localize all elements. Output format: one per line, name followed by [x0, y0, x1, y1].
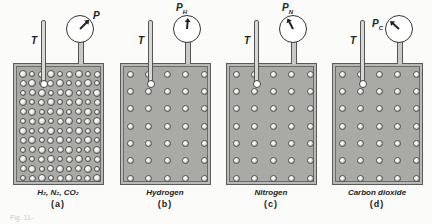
- gas-molecule: [201, 71, 208, 78]
- gauge-label: PN: [282, 2, 293, 15]
- gas-molecule: [57, 175, 64, 182]
- gas-molecule: [307, 175, 314, 182]
- gas-name-label: Hydrogen: [115, 188, 215, 197]
- gas-molecule: [94, 137, 100, 143]
- gas-molecule: [57, 118, 64, 125]
- gauge-needle: [186, 21, 189, 29]
- gas-molecule: [233, 88, 240, 95]
- gas-molecule: [288, 140, 295, 147]
- gas-molecule: [76, 175, 82, 181]
- gas-molecule: [65, 174, 73, 182]
- gauge-stem: [78, 40, 84, 64]
- gas-molecule: [76, 90, 82, 96]
- gas-molecule: [307, 88, 314, 95]
- gas-molecule: [357, 88, 364, 95]
- thermometer-icon: [360, 20, 365, 84]
- gas-molecule: [20, 118, 26, 124]
- gas-molecule: [182, 157, 189, 164]
- gas-molecule: [145, 105, 152, 112]
- gas-molecule: [56, 136, 64, 144]
- gauge-label: PC: [372, 18, 383, 31]
- gas-molecule: [270, 71, 277, 78]
- gas-name-label: Nitrogen: [221, 188, 321, 197]
- gauge-label-subscript: N: [289, 9, 293, 15]
- gas-molecule: [84, 79, 92, 87]
- gas-molecule: [270, 157, 277, 164]
- gas-molecule: [29, 146, 36, 153]
- gauge-label-subscript: C: [379, 25, 383, 31]
- gas-molecule: [85, 99, 91, 105]
- gas-molecule: [29, 99, 35, 105]
- gas-vessel: [332, 63, 423, 185]
- gas-molecule: [19, 98, 27, 106]
- gas-molecule: [29, 118, 36, 125]
- gas-molecule: [413, 175, 420, 182]
- gas-molecule: [251, 175, 258, 182]
- thermometer-bulb: [359, 80, 367, 88]
- gas-molecule: [357, 157, 364, 164]
- panel-c: TPNNitrogen(c): [226, 0, 332, 212]
- gauge-label-subscript: H: [183, 9, 187, 15]
- gas-molecule: [48, 118, 54, 124]
- gas-molecule: [233, 123, 240, 130]
- gas-molecule: [84, 175, 91, 182]
- gas-molecule: [48, 147, 54, 153]
- gas-molecule: [394, 175, 401, 182]
- gauge-label-main: P: [93, 10, 100, 21]
- gas-molecule: [57, 71, 63, 77]
- gas-molecule: [145, 175, 152, 182]
- thermometer-bulb: [253, 80, 261, 88]
- gas-molecule: [75, 80, 82, 87]
- gas-molecule: [94, 99, 101, 106]
- gas-molecule: [57, 89, 64, 96]
- gas-molecule: [201, 157, 208, 164]
- pressure-gauge-icon: [66, 15, 94, 43]
- thermometer-icon: [254, 20, 259, 84]
- gauge-stem: [185, 40, 191, 64]
- gas-molecule: [38, 127, 45, 134]
- gas-molecule: [394, 105, 401, 112]
- panel-letter: (a): [8, 199, 108, 209]
- gas-molecule: [233, 175, 240, 182]
- gas-molecule: [394, 71, 401, 78]
- pressure-gauge-icon: [385, 15, 413, 43]
- gas-molecule: [65, 89, 73, 97]
- gas-molecule: [127, 140, 134, 147]
- gas-molecule: [413, 140, 420, 147]
- gas-molecule: [127, 123, 134, 130]
- gas-molecule: [93, 89, 101, 97]
- gas-molecule: [19, 155, 27, 163]
- gas-molecule: [20, 147, 26, 153]
- gas-molecule: [65, 146, 73, 154]
- gas-molecule: [57, 146, 64, 153]
- gas-molecule: [127, 157, 134, 164]
- gas-molecule: [288, 88, 295, 95]
- gas-molecule: [164, 123, 171, 130]
- gas-molecule: [29, 71, 35, 77]
- gas-molecule: [164, 88, 171, 95]
- gas-molecule: [48, 90, 54, 96]
- gas-molecule: [339, 123, 346, 130]
- gas-molecule: [20, 80, 27, 87]
- gas-molecule: [66, 127, 73, 134]
- gas-molecule: [376, 123, 383, 130]
- panel-letter: (b): [115, 199, 215, 209]
- gas-molecule: [38, 99, 45, 106]
- gas-molecule: [84, 118, 91, 125]
- gas-molecule: [270, 175, 277, 182]
- gas-molecule: [376, 157, 383, 164]
- gauge-stem: [291, 40, 297, 64]
- gas-molecule: [29, 175, 36, 182]
- gas-molecule: [394, 123, 401, 130]
- gas-molecule: [57, 128, 63, 134]
- gas-vessel: [120, 63, 211, 185]
- gas-molecule: [56, 108, 64, 116]
- gauge-label-main: P: [176, 2, 183, 13]
- gas-molecule: [201, 175, 208, 182]
- gas-molecule: [94, 80, 100, 86]
- gas-molecule: [93, 117, 101, 125]
- gas-molecule: [127, 175, 134, 182]
- gas-molecule: [288, 71, 295, 78]
- gas-molecule: [76, 118, 82, 124]
- gas-molecule: [47, 127, 55, 135]
